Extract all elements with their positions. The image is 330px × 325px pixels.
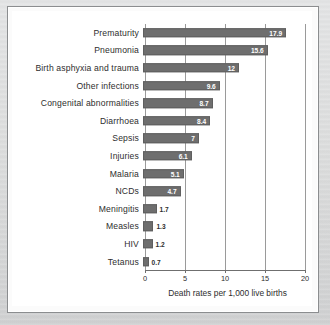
bar-value-label: 5.1	[171, 170, 180, 177]
category-label: Diarrhoea	[0, 116, 143, 126]
axis-tick-label: 0	[143, 274, 147, 283]
axis-tick-label: 10	[221, 274, 229, 283]
category-label: Birth asphyxia and trauma	[0, 63, 143, 73]
x-axis-title: Death rates per 1,000 live births	[145, 288, 310, 298]
bar-value-label: 6.1	[179, 152, 188, 159]
bar-row: Congenital abnormalities8.7	[0, 94, 330, 112]
category-label: Meningitis	[0, 204, 143, 214]
bar-track: 8.4	[143, 112, 330, 130]
bar[interactable]	[143, 46, 268, 56]
bar-row: Measles1.3	[0, 218, 330, 236]
bar-value-label: 8.4	[197, 117, 206, 124]
category-label: NCDs	[0, 186, 143, 196]
bar-track: 9.6	[143, 77, 330, 95]
bar-value-label: 1.3	[156, 223, 165, 230]
category-label: Measles	[0, 221, 143, 231]
chart-page: Prematurity17.9Pneumonia15.6Birth asphyx…	[0, 0, 330, 325]
bar-row: Malaria5.1	[0, 165, 330, 183]
category-label: Congenital abnormalities	[0, 98, 143, 108]
bar-track: 4.7	[143, 182, 330, 200]
bar-rows: Prematurity17.9Pneumonia15.6Birth asphyx…	[0, 24, 330, 270]
bar[interactable]	[143, 63, 239, 73]
bar-track: 12	[143, 59, 330, 77]
axis-tick	[265, 270, 266, 273]
bar[interactable]	[143, 239, 153, 249]
bar-track: 7	[143, 130, 330, 148]
bar-row: HIV1.2	[0, 235, 330, 253]
bar-value-label: 8.7	[199, 100, 208, 107]
bar-row: Diarrhoea8.4	[0, 112, 330, 130]
bar-row: Prematurity17.9	[0, 24, 330, 42]
bar-track: 0.7	[143, 253, 330, 271]
bar-value-label: 9.6	[207, 82, 216, 89]
category-label: Prematurity	[0, 28, 143, 38]
bar-row: Other infections9.6	[0, 77, 330, 95]
axis-tick	[145, 270, 146, 273]
category-label: Tetanus	[0, 257, 143, 267]
bar-value-label: 15.6	[251, 47, 264, 54]
axis-tick-label: 5	[183, 274, 187, 283]
bar-track: 1.3	[143, 218, 330, 236]
bar-value-label: 17.9	[269, 29, 282, 36]
bar-track: 5.1	[143, 165, 330, 183]
axis-tick	[185, 270, 186, 273]
bar-row: Injuries6.1	[0, 147, 330, 165]
bar[interactable]	[143, 257, 149, 267]
bar-row: Sepsis7	[0, 130, 330, 148]
bar-row: Birth asphyxia and trauma12	[0, 59, 330, 77]
category-label: Sepsis	[0, 133, 143, 143]
axis-tick-label: 20	[301, 274, 309, 283]
bar-value-label: 7	[191, 135, 195, 142]
bar[interactable]	[143, 222, 153, 232]
category-label: Other infections	[0, 81, 143, 91]
bar-row: NCDs4.7	[0, 182, 330, 200]
axis-tick-label: 15	[261, 274, 269, 283]
category-label: Malaria	[0, 169, 143, 179]
bar[interactable]	[143, 28, 286, 38]
bar-chart: Prematurity17.9Pneumonia15.6Birth asphyx…	[0, 0, 330, 325]
bar-value-label: 1.7	[160, 205, 169, 212]
axis-tick	[225, 270, 226, 273]
bar-track: 6.1	[143, 147, 330, 165]
axis-tick	[305, 270, 306, 273]
bar-value-label: 1.2	[156, 240, 165, 247]
bar[interactable]	[143, 204, 157, 214]
bar-track: 1.7	[143, 200, 330, 218]
category-label: Injuries	[0, 151, 143, 161]
bar-track: 8.7	[143, 94, 330, 112]
bar-row: Pneumonia15.6	[0, 42, 330, 60]
bar-track: 17.9	[143, 24, 330, 42]
bar-value-label: 4.7	[167, 188, 176, 195]
bar-row: Meningitis1.7	[0, 200, 330, 218]
bar-value-label: 12	[228, 64, 235, 71]
bar-row: Tetanus0.7	[0, 253, 330, 271]
category-label: HIV	[0, 239, 143, 249]
bar-track: 1.2	[143, 235, 330, 253]
bar-value-label: 0.7	[152, 258, 161, 265]
category-label: Pneumonia	[0, 45, 143, 55]
bar-track: 15.6	[143, 42, 330, 60]
